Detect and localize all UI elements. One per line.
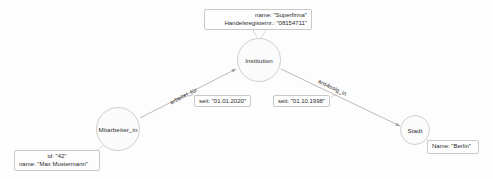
node-stadt-label: Stadt <box>408 127 423 134</box>
attribute-line: Handelsregisternr.: "08154711" <box>209 20 307 28</box>
edge-property-text: seit: "01.01.2020" <box>199 98 246 104</box>
edge-property-box-ansaessig-in[interactable]: seit: "01.10.1998" <box>273 95 330 107</box>
attribute-box-institution[interactable]: name: "Superfirma" Handelsregisternr.: "… <box>204 9 312 30</box>
edge-property-box-arbeitet-fuer[interactable]: seit: "01.01.2020" <box>194 95 251 107</box>
attribute-line: Name: "Berlin" <box>432 143 474 151</box>
node-mitarbeiter-in[interactable]: Mitarbeiter_in <box>96 107 140 151</box>
edge-property-text: seit: "01.10.1998" <box>278 98 325 104</box>
attribute-box-stadt[interactable]: Name: "Berlin" <box>427 140 479 154</box>
node-institution-label: Institution <box>245 57 273 64</box>
attribute-line: id: "42" <box>19 153 95 161</box>
node-mitarbeiter-in-label: Mitarbeiter_in <box>99 126 138 133</box>
node-institution[interactable]: Institution <box>237 38 281 82</box>
attribute-line: name: "Superfirma" <box>209 12 307 20</box>
node-stadt[interactable]: Stadt <box>400 115 430 145</box>
graph-diagram-canvas: Institution Mitarbeiter_in Stadt name: "… <box>0 0 493 179</box>
attribute-box-mitarbeiter-in[interactable]: id: "42" name: "Max Mustermann" <box>14 150 100 171</box>
attribute-line: name: "Max Mustermann" <box>19 161 95 169</box>
